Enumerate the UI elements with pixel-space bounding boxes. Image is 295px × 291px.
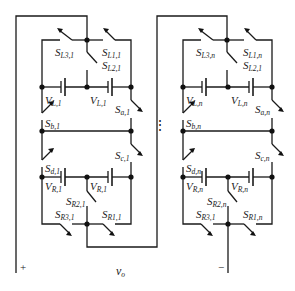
label-Sd-n: Sd,n — [186, 163, 201, 176]
label-SR1-n: SR1,n — [243, 209, 262, 222]
label-SL3-n: SL3,n — [196, 47, 215, 60]
label-SL1-1: SL1,1 — [102, 47, 121, 60]
label-VR-n-left: VR,n — [186, 181, 203, 194]
label-SL2-1: SL2,1 — [102, 60, 121, 73]
label-Sa-1: Sa,1 — [115, 104, 130, 117]
label-SR3-n: SR3,1 — [196, 209, 215, 222]
label-Sc-1: Sc,1 — [115, 150, 129, 163]
label-SR3-1: SR3,1 — [55, 209, 74, 222]
output-minus-sign: − — [218, 262, 224, 273]
label-SL2-n: SL2,1 — [243, 60, 262, 73]
circuit-wires — [0, 0, 295, 291]
label-VR-1-left: VR,1 — [45, 181, 62, 194]
label-VL-1-right: VL,1 — [90, 95, 107, 108]
label-VL-n-right: VL,n — [231, 95, 248, 108]
label-VL-1-left: VL,1 — [45, 95, 62, 108]
label-Sd-1: Sd,1 — [45, 163, 60, 176]
label-SL1-n: SL1,n — [243, 47, 262, 60]
output-plus-sign: + — [20, 262, 26, 273]
output-voltage-label: vo — [116, 265, 125, 279]
label-VR-1-right: VR,1 — [90, 181, 107, 194]
label-Sb-1: Sb,1 — [45, 118, 60, 131]
label-VR-n-right: VR,n — [231, 181, 248, 194]
module-ellipsis: ⋮ — [153, 119, 167, 133]
label-SL3-1: SL3,1 — [55, 47, 74, 60]
label-SR1-1: SR1,1 — [102, 209, 121, 222]
label-SR2-1: SR2,1 — [66, 196, 85, 209]
circuit-diagram: ⋮ SL3,1 SL1,1 SL2,1 VL,1 VL,1 Sa,1 Sb,1 … — [0, 0, 295, 291]
label-Sb-n: Sb,n — [186, 118, 201, 131]
label-Sa-n: Sa,n — [255, 104, 270, 117]
label-VL-n-left: VL,n — [186, 95, 203, 108]
label-Sc-n: Sc,n — [255, 150, 269, 163]
label-SR2-n: SR2,n — [207, 196, 226, 209]
